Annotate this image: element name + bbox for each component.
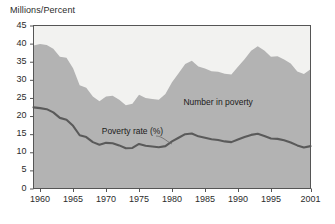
y-axis-tick-label: 45 [7,20,27,30]
poverty-chart-figure: Millions/Percent 051015202530354045 1960… [0,0,335,224]
y-axis-tick-label: 5 [7,164,27,174]
y-axis-tick-label: 30 [7,74,27,84]
label-poverty-rate: Poverty rate (%) [96,126,168,136]
y-axis-tick-label: 10 [7,146,27,156]
x-axis-tick-label: 1995 [251,194,291,204]
y-axis-tick-label: 15 [7,128,27,138]
chart-plot-area [0,0,335,224]
label-number-in-poverty: Number in poverty [174,97,262,107]
y-axis-tick-label: 0 [7,183,27,193]
x-axis-tick-label: 2001 [291,194,331,204]
y-axis-tick-label: 40 [7,38,27,48]
y-axis-tick-label: 35 [7,56,27,66]
y-axis-tick-label: 25 [7,92,27,102]
y-axis-tick-label: 20 [7,110,27,120]
